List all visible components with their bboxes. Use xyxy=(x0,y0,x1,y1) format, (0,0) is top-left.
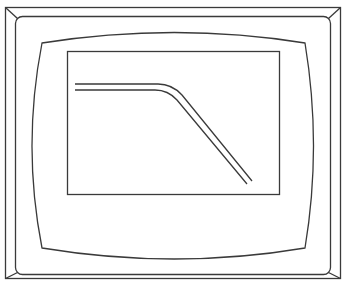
response-curve-upper xyxy=(75,84,252,181)
response-curve-lower xyxy=(75,90,247,184)
bevel-bottom-left xyxy=(6,273,18,279)
screen-bezel xyxy=(32,33,314,260)
outer-frame xyxy=(6,8,341,279)
display-window xyxy=(68,52,280,195)
monitor-diagram xyxy=(0,0,350,291)
monitor-svg xyxy=(0,0,350,291)
bevel-top-right xyxy=(329,8,341,19)
inner-frame xyxy=(16,17,331,275)
bevel-top-left xyxy=(6,8,18,19)
bevel-bottom-right xyxy=(329,273,341,279)
